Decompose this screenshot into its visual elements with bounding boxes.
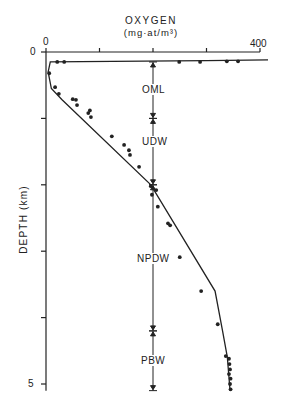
data-point <box>224 354 228 358</box>
data-point <box>198 60 202 64</box>
data-point <box>228 367 232 371</box>
data-point <box>74 98 78 102</box>
x-tick-label-400: 400 <box>250 38 267 49</box>
data-point <box>168 223 172 227</box>
data-point <box>149 184 153 188</box>
data-point <box>156 205 160 209</box>
data-point <box>75 103 79 107</box>
data-point <box>110 134 114 138</box>
data-point <box>62 60 66 64</box>
data-point <box>229 387 233 391</box>
data-point <box>127 148 131 152</box>
data-point <box>57 92 61 96</box>
data-point <box>228 362 232 366</box>
oxygen-profile-line <box>48 60 268 391</box>
observation-points <box>47 59 240 391</box>
data-point <box>47 71 51 75</box>
data-point <box>236 59 240 63</box>
zone-label-oml: OML <box>141 84 166 95</box>
data-point <box>227 357 231 361</box>
data-point <box>71 97 75 101</box>
data-point <box>229 377 233 381</box>
y-tick-label-5: 5 <box>28 378 34 389</box>
data-point <box>228 382 232 386</box>
arrow-up-icon <box>151 332 156 336</box>
arrow-down-icon <box>151 180 156 184</box>
data-point <box>88 109 92 113</box>
data-point <box>216 322 220 326</box>
zone-label-npdw: NPDW <box>136 253 171 264</box>
data-point <box>122 143 126 147</box>
arrow-up-icon <box>151 63 156 67</box>
zone-label-udw: UDW <box>141 136 168 147</box>
data-point <box>150 193 154 197</box>
oxygen-depth-chart <box>0 0 282 416</box>
x-tick-label-0: 0 <box>43 36 49 47</box>
y-tick-label-0: 0 <box>30 46 36 57</box>
data-point <box>55 60 59 64</box>
data-point <box>53 85 57 89</box>
data-point <box>225 59 229 63</box>
y-axis-label: DEPTH (km) <box>18 185 29 255</box>
data-point <box>199 289 203 293</box>
arrow-down-icon <box>151 326 156 330</box>
data-point <box>177 60 181 64</box>
arrow-down-icon <box>151 386 156 390</box>
data-point <box>178 255 182 259</box>
data-point <box>137 165 141 169</box>
chart-title: OXYGEN <box>0 15 282 26</box>
data-point <box>227 372 231 376</box>
arrow-up-icon <box>151 119 156 123</box>
data-point <box>89 115 93 119</box>
arrow-down-icon <box>151 113 156 117</box>
zone-label-pbw: PBW <box>140 355 166 366</box>
data-point <box>154 188 158 192</box>
data-point <box>128 153 132 157</box>
water-mass-zones <box>149 62 157 391</box>
